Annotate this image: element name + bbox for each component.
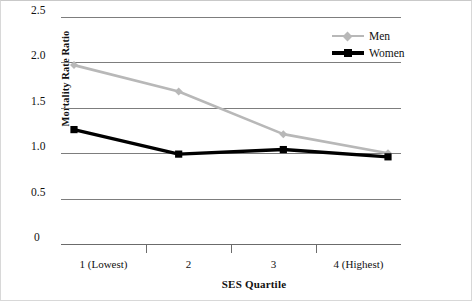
legend-item-men[interactable]: Men [331, 27, 421, 44]
y-tick-label: 0 [34, 231, 40, 243]
series-men [70, 61, 392, 157]
y-tick-label: 1.0 [31, 140, 45, 152]
square-marker-icon [344, 49, 352, 57]
gridline [61, 62, 401, 63]
y-tick-label: 1.5 [31, 95, 45, 107]
gridline [61, 17, 401, 18]
x-tick-mark [316, 244, 317, 253]
y-tick-label: 2.5 [31, 4, 45, 16]
x-tick-mark [146, 244, 147, 253]
legend-swatch-men [331, 30, 365, 42]
gridline [61, 108, 401, 109]
x-tick-label: 1 (Lowest) [80, 258, 128, 270]
x-tick-label: 4 (Highest) [334, 258, 384, 270]
chart-figure: Mortality Rate Ratio 00.51.01.52.02.5 1 … [0, 0, 472, 301]
data-point-square [70, 126, 77, 133]
data-point-square [384, 153, 391, 160]
y-tick-label: 0.5 [31, 186, 45, 198]
x-tick-mark [231, 244, 232, 253]
y-axis-title: Mortality Rate Ratio [60, 9, 71, 149]
legend-label-women: Women [365, 47, 404, 59]
legend-item-women[interactable]: Women [331, 44, 421, 61]
chart-legend: Men Women [331, 27, 421, 61]
legend-swatch-women [331, 47, 365, 59]
diamond-marker-icon [343, 31, 353, 41]
legend-label-men: Men [365, 30, 390, 42]
series-women [70, 126, 391, 160]
data-point-diamond [175, 87, 183, 95]
series-line [74, 65, 388, 153]
data-point-diamond [279, 130, 287, 138]
gridline [61, 153, 401, 154]
gridline [61, 199, 401, 200]
x-tick-label: 2 [186, 258, 192, 270]
x-axis-title: SES Quartile [1, 278, 472, 290]
x-tick-label: 3 [271, 258, 277, 270]
y-tick-label: 2.0 [31, 49, 45, 61]
data-point-square [280, 146, 287, 153]
